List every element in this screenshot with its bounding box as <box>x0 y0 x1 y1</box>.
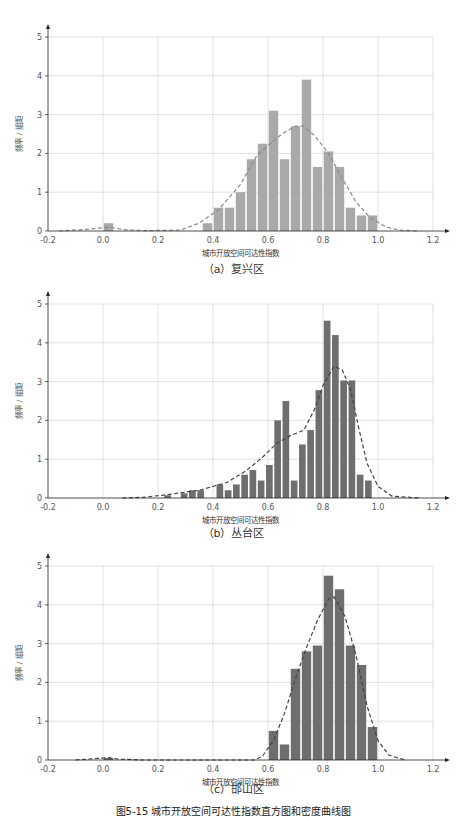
y-tick-label: 2 <box>37 149 42 158</box>
y-tick-label: 3 <box>37 640 42 649</box>
x-tick-label: 0.4 <box>207 236 220 245</box>
histogram-bar <box>266 465 273 498</box>
histogram-bar <box>307 430 314 498</box>
histogram-bar <box>316 390 323 498</box>
x-tick-label: 0.6 <box>262 503 275 512</box>
histogram-bar <box>233 484 240 498</box>
y-tick-label: 5 <box>37 562 42 571</box>
histogram-bar <box>368 215 377 231</box>
x-tick-label: 0.8 <box>317 236 330 245</box>
x-tick-label: 0.4 <box>207 503 220 512</box>
y-axis-arrow-icon <box>46 291 50 296</box>
x-tick-label: 1.0 <box>372 503 385 512</box>
histogram-bar <box>291 481 298 498</box>
histogram-bar <box>225 490 232 498</box>
histogram-chart-hanshan: 012345-0.20.00.20.40.60.81.01.2城市开放空间可达性… <box>0 529 467 791</box>
histogram-bar <box>340 380 347 498</box>
histogram-bar <box>214 208 223 231</box>
histogram-bar <box>365 481 372 498</box>
x-tick-label: 0.8 <box>317 503 330 512</box>
y-tick-label: 3 <box>37 378 42 387</box>
y-tick-label: 5 <box>37 300 42 309</box>
y-tick-label: 1 <box>37 188 42 197</box>
y-axis-arrow-icon <box>46 553 50 558</box>
histogram-bar <box>280 744 289 760</box>
histogram-bar <box>258 144 267 231</box>
x-tick-label: 0.2 <box>152 236 165 245</box>
histogram-bar <box>332 335 339 498</box>
histogram-bar <box>349 380 356 498</box>
y-tick-label: 0 <box>37 756 42 765</box>
chart-caption-c: （c）邯山区 <box>0 780 467 796</box>
histogram-chart-congtai: 012345-0.20.00.20.40.60.81.01.2城市开放空间可达性… <box>0 267 467 529</box>
x-axis-arrow-icon <box>445 229 450 233</box>
x-tick-label: 1.2 <box>427 503 440 512</box>
histogram-bar <box>346 646 355 760</box>
histogram-bar <box>324 151 333 231</box>
y-tick-label: 1 <box>37 717 42 726</box>
histogram-bar <box>241 475 248 498</box>
histogram-bar <box>203 223 212 231</box>
x-tick-label: 1.0 <box>372 765 385 774</box>
histogram-bar <box>197 490 204 498</box>
y-axis-label: 频率 / 组距 <box>14 644 24 680</box>
y-tick-label: 0 <box>37 227 42 236</box>
histogram-bar <box>181 493 188 498</box>
x-tick-label: 0.0 <box>97 765 110 774</box>
histogram-bar <box>335 589 344 760</box>
y-axis-label: 频率 / 组距 <box>14 115 24 151</box>
histogram-bar <box>250 470 257 498</box>
x-tick-label: -0.2 <box>40 765 56 774</box>
histogram-bar <box>258 481 265 498</box>
x-tick-label: 0.2 <box>152 503 165 512</box>
histogram-bar <box>274 420 281 498</box>
histogram-bar <box>313 167 322 231</box>
histogram-bar <box>280 159 289 231</box>
chart-panel-a: 012345-0.20.00.20.40.60.81.01.2城市开放空间可达性… <box>0 0 467 270</box>
x-tick-label: 1.2 <box>427 765 440 774</box>
x-axis-arrow-icon <box>445 758 450 762</box>
histogram-bar <box>269 731 278 760</box>
y-tick-label: 2 <box>37 416 42 425</box>
histogram-bar <box>302 80 311 231</box>
y-tick-label: 1 <box>37 455 42 464</box>
histogram-bar <box>299 444 306 498</box>
histogram-bar <box>269 111 278 231</box>
histogram-bar <box>324 576 333 760</box>
figure-caption: 图5-15 城市开放空间可达性指数直方图和密度曲线图 <box>0 803 467 818</box>
histogram-bar <box>291 126 300 231</box>
x-tick-label: 1.0 <box>372 236 385 245</box>
x-tick-label: -0.2 <box>40 236 56 245</box>
y-tick-label: 2 <box>37 678 42 687</box>
histogram-chart-fuxing: 012345-0.20.00.20.40.60.81.01.2城市开放空间可达性… <box>0 0 467 262</box>
y-tick-label: 4 <box>37 601 42 610</box>
x-tick-label: 0.0 <box>97 503 110 512</box>
histogram-bar <box>324 321 331 498</box>
y-axis-arrow-icon <box>46 24 50 29</box>
x-tick-label: 0.4 <box>207 765 220 774</box>
x-axis-label: 城市开放空间可达性指数 <box>202 248 280 258</box>
x-tick-label: 0.0 <box>97 236 110 245</box>
x-tick-label: 0.6 <box>262 765 275 774</box>
y-axis-label: 频率 / 组距 <box>14 382 24 418</box>
histogram-bar <box>357 475 364 498</box>
histogram-bar <box>283 401 290 498</box>
y-tick-label: 4 <box>37 339 42 348</box>
histogram-bar <box>346 208 355 231</box>
histogram-bar <box>217 484 224 498</box>
y-tick-label: 3 <box>37 111 42 120</box>
x-tick-label: 0.2 <box>152 765 165 774</box>
x-tick-label: 0.8 <box>317 765 330 774</box>
y-tick-label: 0 <box>37 494 42 503</box>
y-tick-label: 4 <box>37 72 42 81</box>
histogram-bar <box>225 208 234 231</box>
histogram-bar <box>357 215 366 231</box>
x-tick-label: -0.2 <box>40 503 56 512</box>
density-curve <box>76 597 406 760</box>
histogram-bar <box>302 651 311 760</box>
x-tick-label: 1.2 <box>427 236 440 245</box>
histogram-bar <box>335 167 344 231</box>
y-tick-label: 5 <box>37 33 42 42</box>
histogram-bar <box>291 669 300 760</box>
histogram-bar <box>236 192 245 231</box>
